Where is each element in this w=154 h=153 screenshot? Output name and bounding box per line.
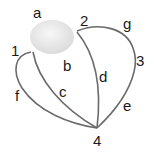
- edge-d: [77, 32, 99, 128]
- label-edge-e: e: [123, 97, 131, 114]
- graph-diagram: a 2 g 1 3 b d c f e 4: [0, 0, 154, 153]
- graph-svg: a 2 g 1 3 b d c f e 4: [0, 0, 154, 153]
- label-edge-g: g: [123, 15, 131, 32]
- label-edge-f: f: [15, 87, 20, 104]
- label-vertex-1: 1: [11, 42, 19, 59]
- label-vertex-3: 3: [136, 52, 144, 69]
- label-edge-d: d: [99, 68, 107, 85]
- label-vertex-2: 2: [80, 12, 88, 29]
- label-edge-b: b: [63, 57, 71, 74]
- label-a: a: [33, 4, 42, 21]
- edge-f: [16, 52, 97, 128]
- label-vertex-4: 4: [93, 132, 101, 149]
- label-edge-c: c: [59, 83, 67, 100]
- edge-g: [77, 27, 135, 72]
- region-a: [30, 20, 74, 54]
